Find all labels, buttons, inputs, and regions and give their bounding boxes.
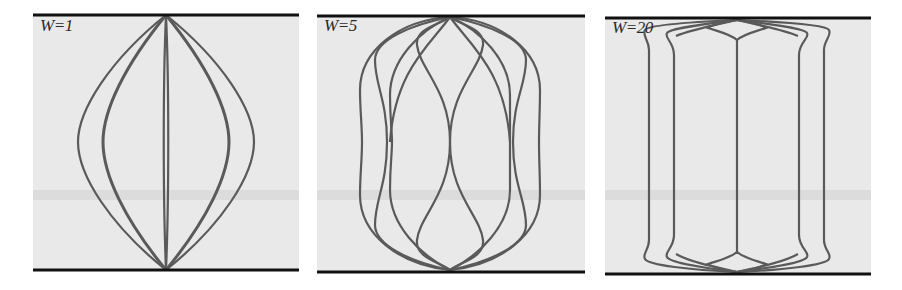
figure: W=1 — [0, 0, 902, 290]
panel-label: W=20 — [612, 18, 653, 38]
panel-w20: W=20 — [0, 0, 902, 290]
panel-w20-plot — [0, 0, 902, 290]
